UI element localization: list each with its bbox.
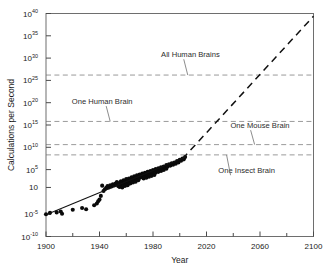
x-tick-label-1: 1940 — [91, 242, 109, 251]
annotation-label-0: All Human Brains — [161, 50, 220, 59]
y-tick-label-9: 10-5 — [24, 209, 38, 220]
trend-line-projection — [182, 16, 313, 159]
y-tick-label-6: 1010 — [23, 142, 38, 153]
data-point — [99, 194, 103, 198]
data-point — [97, 197, 101, 201]
y-tick-label-10: 10-10 — [21, 231, 38, 242]
x-tick-label-0: 1900 — [37, 242, 55, 251]
chart-figure: 10401035103010251020101510101051010-510-… — [0, 0, 327, 278]
y-tick-label-5: 1015 — [23, 119, 38, 130]
x-axis-title: Year — [171, 255, 188, 265]
annotation-label-1: One Human Brain — [72, 97, 133, 106]
y-tick-label-0: 1040 — [23, 8, 38, 19]
y-tick-label-8: 10 — [29, 183, 38, 192]
data-point — [60, 212, 64, 216]
y-tick-label-3: 1025 — [23, 75, 38, 86]
annotation-leader-0 — [184, 59, 188, 75]
x-tick-label-4: 2060 — [251, 242, 269, 251]
annotation-label-2: One Mouse Brain — [230, 121, 289, 130]
x-tick-label-2: 1980 — [144, 242, 162, 251]
x-tick-label-5: 2100 — [305, 242, 323, 251]
calculations-per-second-chart: 10401035103010251020101510101051010-510-… — [0, 0, 327, 278]
annotation-leader-2 — [251, 130, 255, 144]
x-tick-label-3: 2020 — [198, 242, 216, 251]
annotation-leader-1 — [106, 106, 110, 121]
annotation-label-3: One Insect Brain — [218, 166, 275, 175]
data-point — [100, 184, 104, 188]
y-tick-label-7: 105 — [26, 164, 38, 175]
data-point — [80, 206, 84, 210]
y-tick-label-4: 1020 — [23, 97, 38, 108]
y-axis-title: Calculations per Second — [6, 79, 16, 171]
data-point — [84, 207, 88, 211]
data-point — [71, 208, 75, 212]
y-tick-label-2: 1030 — [23, 53, 38, 64]
trend-line-historical — [46, 157, 186, 215]
y-tick-label-1: 1035 — [23, 30, 38, 41]
